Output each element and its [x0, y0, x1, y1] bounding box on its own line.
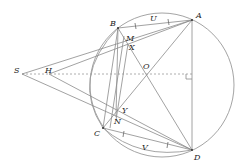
tick-vd	[167, 142, 168, 148]
point-a	[191, 19, 193, 21]
point-b	[117, 27, 119, 29]
label-o: O	[143, 62, 150, 71]
label-y: Y	[122, 106, 128, 115]
tick-cv	[123, 131, 124, 137]
line-s-d	[22, 74, 192, 150]
label-c: C	[94, 129, 100, 138]
label-u: U	[150, 14, 157, 23]
line-h-n	[49, 74, 192, 150]
tick-ub	[135, 23, 136, 29]
label-h: H	[44, 66, 53, 75]
label-x: X	[128, 43, 135, 52]
right-angle-marker	[186, 74, 192, 79]
geometry-diagram: A B C D S H O M X Y N U V	[0, 0, 246, 168]
label-n: N	[113, 117, 122, 126]
label-s: S	[14, 66, 20, 75]
label-d: D	[193, 153, 201, 162]
point-c	[102, 127, 104, 129]
tick-au	[168, 19, 169, 25]
label-b: B	[109, 19, 116, 28]
label-a: A	[195, 11, 202, 20]
label-m: M	[125, 34, 135, 43]
point-d	[191, 149, 193, 151]
